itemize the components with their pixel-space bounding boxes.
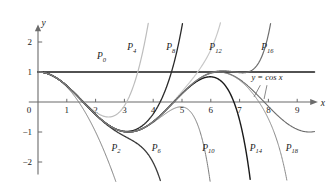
series-label-P_16: P16 (260, 42, 274, 53)
x-tick-label-6: 6 (209, 105, 214, 115)
series-label-P_0: P0 (96, 51, 107, 62)
curve-P_2 (38, 72, 116, 181)
y-tick-label-−1: −1 (22, 127, 32, 137)
plot-area: 012345678921−1−2yxP0P2P4P6P8P10P12P14P16… (0, 0, 334, 191)
series-label-P_10: P10 (201, 143, 215, 154)
x-tick-label-9: 9 (295, 105, 300, 115)
curve-P_18 (38, 72, 287, 180)
series-label-P_12: P12 (208, 42, 222, 53)
series-label-P_8: P8 (165, 42, 176, 53)
y-axis-label: y (41, 18, 47, 28)
x-axis-label: x (320, 98, 326, 108)
y-axis-arrow (35, 25, 41, 32)
x-tick-label-0: 0 (27, 105, 32, 115)
cos-curve-label: y = cos x (250, 72, 282, 82)
x-tick-label-1: 1 (65, 105, 70, 115)
y-tick-label-2: 2 (28, 37, 33, 47)
y-tick-label-−2: −2 (22, 157, 32, 167)
series-label-P_18: P18 (285, 143, 299, 154)
cos-label-leader-line-2 (264, 85, 267, 99)
taylor-polynomial-chart: 012345678921−1−2yxP0P2P4P6P8P10P12P14P16… (0, 0, 334, 191)
series-label-P_2: P2 (110, 143, 121, 154)
x-axis-arrow (310, 99, 318, 105)
x-tick-label-3: 3 (122, 105, 127, 115)
series-label-P_14: P14 (249, 143, 263, 154)
series-label-P_6: P6 (151, 143, 162, 154)
curve-P_4 (38, 23, 148, 117)
y-tick-label-1: 1 (28, 67, 33, 77)
series-label-P_4: P4 (126, 42, 137, 53)
